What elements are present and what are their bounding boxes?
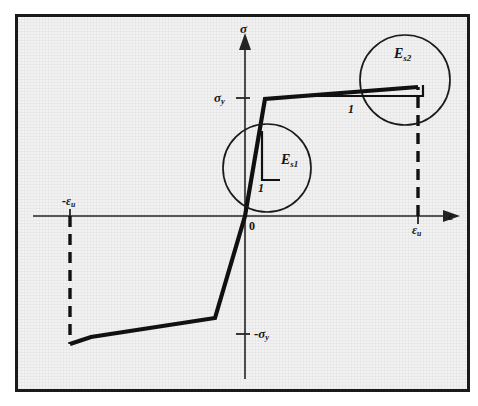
sigma-y-symbol: σ xyxy=(214,90,221,105)
es1-subscript: s1 xyxy=(290,159,298,169)
sigma-y-subscript: y xyxy=(221,97,225,106)
neg-sigma-y-label: -σy xyxy=(254,327,269,343)
es1-unit-run-label: 1 xyxy=(258,182,264,194)
neg-sigma-y-subscript: y xyxy=(265,333,269,342)
neg-epsilon-u-subscript: u xyxy=(71,200,75,209)
es2-unit-run-label: 1 xyxy=(348,103,354,115)
neg-epsilon-u-symbol: -ε xyxy=(62,194,71,208)
y-axis-label: σ xyxy=(240,22,247,35)
origin-label: 0 xyxy=(249,220,255,232)
neg-sigma-y-symbol: -σ xyxy=(254,326,265,341)
epsilon-u-label: εu xyxy=(412,224,421,238)
slope-triangle-es1 xyxy=(262,131,280,180)
es1-symbol: E xyxy=(281,152,290,167)
es2-subscript: s2 xyxy=(403,53,411,63)
es1-label: Es1 xyxy=(281,153,298,168)
x-axis-label: ε xyxy=(448,209,453,222)
epsilon-u-subscript: u xyxy=(417,229,421,238)
neg-epsilon-u-label: -εu xyxy=(62,195,75,209)
es2-symbol: E xyxy=(394,46,403,61)
callout-es2 xyxy=(314,35,450,125)
figure-frame: σ ε 0 σy -σy εu -εu Es1 1 Es2 1 xyxy=(15,14,470,392)
stress-strain-plot xyxy=(18,17,467,389)
sigma-y-label: σy xyxy=(214,91,225,107)
es2-label: Es2 xyxy=(394,47,411,62)
figure-page: σ ε 0 σy -σy εu -εu Es1 1 Es2 1 xyxy=(0,0,478,406)
